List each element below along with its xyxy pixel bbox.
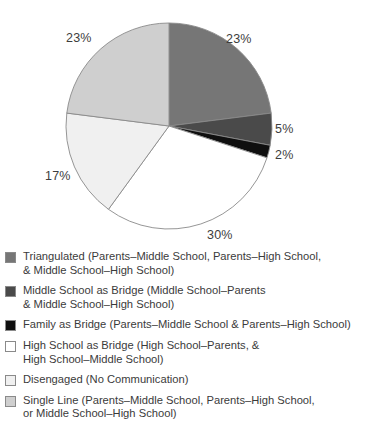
pie-slice-triangulated[interactable] <box>169 23 271 126</box>
legend-label-line1: Single Line (Parents–Middle School, Pare… <box>23 394 315 406</box>
legend-swatch-icon-middle-school-as-bridge <box>5 286 16 297</box>
legend-label-line1: High School as Bridge (High School–Paren… <box>23 339 259 351</box>
legend-label-family-as-bridge: Family as Bridge (Parents–Middle School … <box>23 318 351 332</box>
legend-swatch-icon-disengaged <box>5 375 16 386</box>
legend-swatch-icon-triangulated <box>5 252 16 263</box>
legend-label-disengaged: Disengaged (No Communication) <box>23 373 188 387</box>
legend-swatch-icon-high-school-as-bridge <box>5 341 16 352</box>
legend-swatch-icon-family-as-bridge <box>5 320 16 331</box>
legend-item-middle-school-as-bridge[interactable]: Middle School as Bridge (Middle School–P… <box>0 284 371 311</box>
slice-label-triangulated: 23% <box>226 32 252 46</box>
pie-slice-group <box>66 23 272 229</box>
legend-label-line1: Family as Bridge (Parents–Middle School … <box>23 318 351 330</box>
legend-item-disengaged[interactable]: Disengaged (No Communication) <box>0 373 371 387</box>
slice-label-single-line: 23% <box>66 31 92 45</box>
pie-chart-area: 23% 5% 2% 30% 17% 23% <box>0 0 371 248</box>
legend-label-line2: & Middle School–High School) <box>23 298 266 312</box>
slice-label-high-school-as-bridge: 30% <box>207 228 233 242</box>
slice-label-family-as-bridge: 2% <box>275 148 293 162</box>
legend-label-middle-school-as-bridge: Middle School as Bridge (Middle School–P… <box>23 284 266 311</box>
legend-label-line1: Disengaged (No Communication) <box>23 373 188 385</box>
legend-label-triangulated: Triangulated (Parents–Middle School, Par… <box>23 250 321 277</box>
legend-label-line2: High School–Middle School) <box>23 353 259 367</box>
legend-item-single-line[interactable]: Single Line (Parents–Middle School, Pare… <box>0 394 371 421</box>
legend-label-line1: Middle School as Bridge (Middle School–P… <box>23 284 266 296</box>
legend-item-family-as-bridge[interactable]: Family as Bridge (Parents–Middle School … <box>0 318 371 332</box>
legend-label-high-school-as-bridge: High School as Bridge (High School–Paren… <box>23 339 259 366</box>
legend-label-line2: & Middle School–High School) <box>23 264 321 278</box>
pie-chart-svg <box>0 0 371 248</box>
legend-item-high-school-as-bridge[interactable]: High School as Bridge (High School–Paren… <box>0 339 371 366</box>
chart-legend: Triangulated (Parents–Middle School, Par… <box>0 250 371 428</box>
slice-label-disengaged: 17% <box>45 169 71 183</box>
legend-label-single-line: Single Line (Parents–Middle School, Pare… <box>23 394 315 421</box>
legend-label-line1: Triangulated (Parents–Middle School, Par… <box>23 250 321 262</box>
slice-label-middle-school-as-bridge: 5% <box>275 122 293 136</box>
legend-label-line2: or Middle School–High School) <box>23 407 315 421</box>
legend-swatch-icon-single-line <box>5 396 16 407</box>
legend-item-triangulated[interactable]: Triangulated (Parents–Middle School, Par… <box>0 250 371 277</box>
